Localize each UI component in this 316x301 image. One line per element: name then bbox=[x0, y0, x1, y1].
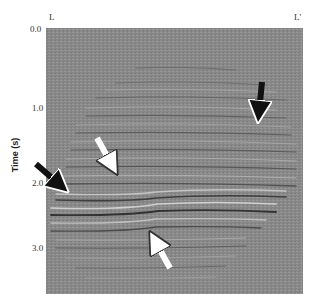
seismic-section bbox=[46, 28, 303, 294]
y-tick-0: 0.0 bbox=[30, 24, 41, 34]
y-axis-label: Time (s) bbox=[10, 138, 20, 172]
y-tick-3: 3.0 bbox=[32, 243, 43, 253]
seismic-reflections bbox=[46, 28, 303, 294]
label-L-prime: L' bbox=[294, 12, 301, 22]
y-tick-2: 2.0 bbox=[32, 178, 43, 188]
label-L: L bbox=[49, 12, 55, 22]
y-tick-1: 1.0 bbox=[32, 103, 43, 113]
